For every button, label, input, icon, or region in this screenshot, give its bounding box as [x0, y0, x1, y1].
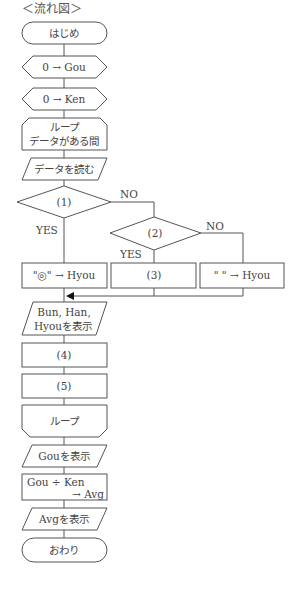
show-avg-step: Avgを表示	[22, 508, 107, 530]
loop-start-label-2: データがある間	[29, 135, 99, 147]
show-avg-label: Avgを表示	[38, 513, 89, 525]
process-4-step: (4)	[22, 343, 107, 367]
output-label-1: Bun, Han,	[37, 306, 90, 318]
decision-1: (1) NO YES	[17, 186, 138, 236]
start-terminal: はじめ	[22, 22, 107, 44]
init-ken-step: 0 → Ken	[22, 88, 107, 110]
read-data-label: データを読む	[34, 163, 94, 175]
end-label: おわり	[49, 544, 79, 556]
merge-arrow-icon	[66, 292, 74, 300]
decision-2-yes-label: YES	[119, 248, 142, 260]
output-label-2: Hyouを表示	[34, 320, 92, 332]
read-data-step: データを読む	[22, 158, 107, 180]
assign-blank-label: " " → Hyou	[214, 269, 271, 281]
loop-start-label-1: ループ	[50, 121, 80, 133]
show-gou-label: Gouを表示	[38, 450, 89, 462]
process-3-label: (3)	[147, 269, 162, 281]
assign-double-circle-step: "◎" → Hyou	[22, 263, 107, 288]
assign-double-circle-label: "◎" → Hyou	[33, 269, 96, 281]
decision-2: (2) NO YES	[110, 217, 224, 260]
process-5-label: (5)	[57, 380, 72, 392]
divide-label-1: Gou ÷ Ken	[27, 476, 85, 488]
init-ken-label: 0 → Ken	[43, 93, 86, 105]
process-3-step: (3)	[111, 263, 196, 288]
decision-1-yes-label: YES	[35, 224, 58, 236]
process-5-step: (5)	[22, 374, 107, 398]
init-gou-label: 0 → Gou	[42, 61, 86, 73]
decision-2-no-label: NO	[206, 220, 224, 232]
start-label: はじめ	[49, 27, 79, 39]
divide-label-2: → Avg	[72, 488, 104, 500]
loop-end: ループ	[22, 405, 107, 437]
loop-start: ループ データがある間	[22, 118, 107, 150]
decision-1-label: (1)	[57, 196, 72, 208]
end-terminal: おわり	[22, 538, 107, 562]
show-gou-step: Gouを表示	[22, 445, 107, 467]
decision-1-no-label: NO	[120, 188, 138, 200]
decision-2-label: (2)	[148, 227, 163, 239]
output-bun-han-hyou: Bun, Han, Hyouを表示	[22, 302, 107, 335]
init-gou-step: 0 → Gou	[22, 56, 107, 78]
loop-end-label: ループ	[50, 415, 80, 427]
process-4-label: (4)	[57, 349, 72, 361]
flowchart-canvas: ＜流れ図＞ はじめ 0 → Gou	[0, 0, 296, 591]
assign-blank-step: " " → Hyou	[200, 263, 284, 288]
diagram-title: ＜流れ図＞	[22, 2, 82, 16]
divide-step: Gou ÷ Ken → Avg	[22, 474, 107, 500]
